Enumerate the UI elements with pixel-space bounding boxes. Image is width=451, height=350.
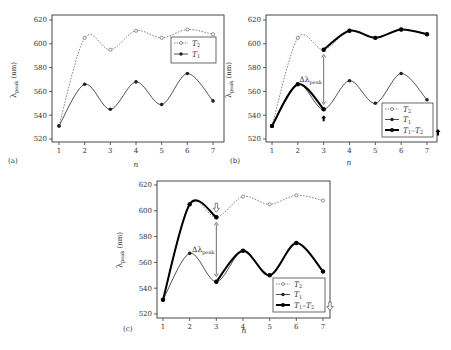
figure: 5205405605806006201234567nλpeak (nm)(a)T…: [0, 0, 451, 350]
legend-t1-marker: [390, 118, 393, 121]
y-tick-label: 560: [34, 88, 47, 96]
t1-marker: [425, 98, 429, 102]
legend: T2T1: [171, 37, 216, 63]
x-tick-label: 3: [214, 323, 218, 331]
t1-t2-marker: [321, 107, 325, 111]
y-tick-label: 560: [139, 259, 152, 267]
t1-marker: [211, 99, 215, 103]
panel-label: (c): [123, 325, 133, 333]
y-tick-label: 620: [34, 16, 47, 24]
t1-marker: [109, 107, 113, 111]
t1-marker: [83, 82, 87, 86]
x-tick-label: 6: [399, 147, 404, 155]
y-tick-label: 600: [34, 40, 47, 48]
y-tick-label: 600: [248, 40, 261, 48]
x-tick-label: 7: [321, 323, 325, 331]
legend-t2-marker: [282, 283, 285, 286]
y-axis-label: λpeak (nm): [9, 62, 20, 98]
legend-t1-t2-marker: [281, 303, 285, 307]
t1-t2-marker: [373, 36, 377, 40]
filled-up-arrow-icon: [321, 115, 326, 121]
t1-t2-marker: [214, 215, 218, 219]
y-axis-label: λpeak (nm): [115, 232, 126, 268]
t2-marker: [186, 28, 189, 31]
t1-t2-marker: [294, 241, 298, 245]
y-tick-label: 560: [248, 88, 261, 96]
x-tick-label: 2: [296, 147, 300, 155]
t2-marker: [211, 33, 214, 36]
t1-t2-marker: [214, 280, 218, 284]
y-tick-label: 540: [248, 112, 261, 120]
t2-marker: [134, 29, 137, 32]
t2-marker: [296, 36, 299, 39]
y-tick-label: 580: [139, 233, 152, 241]
x-tick-label: 1: [57, 147, 61, 155]
y-tick-label: 620: [248, 16, 261, 24]
legend-open-down-arrow-icon: [327, 302, 333, 311]
t2-marker: [83, 36, 86, 39]
plot-frame: [52, 15, 224, 142]
y-tick-label: 520: [248, 135, 261, 143]
y-tick-label: 580: [34, 64, 47, 72]
t2-marker: [321, 199, 324, 202]
x-tick-label: 5: [373, 147, 377, 155]
t2-marker: [109, 48, 112, 51]
y-tick-label: 620: [139, 181, 152, 189]
t1-marker: [348, 79, 352, 83]
t2-marker: [295, 194, 298, 197]
t1-t2-marker: [187, 202, 191, 206]
t1-marker: [374, 102, 378, 106]
y-tick-label: 520: [34, 135, 47, 143]
t2-marker: [268, 203, 271, 206]
x-tick-label: 2: [187, 323, 191, 331]
panel-b-chart: 5205405605806006201234567nλpeak (nm)(b)Δ…: [224, 15, 441, 167]
t1-t2-marker: [241, 249, 245, 253]
legend-t1-marker: [281, 293, 284, 296]
delta-lambda-label: Δλpeak: [192, 245, 215, 256]
legend-t2-marker: [391, 108, 394, 111]
series-t1-t2-line: [272, 84, 324, 126]
x-tick-label: 6: [294, 323, 299, 331]
x-tick-label: 7: [211, 147, 215, 155]
y-tick-label: 600: [139, 207, 152, 215]
t1-t2-marker: [267, 273, 271, 277]
x-tick-label: 7: [425, 147, 429, 155]
t1-t2-marker: [425, 32, 429, 36]
x-tick-label: 5: [159, 147, 163, 155]
x-tick-label: 2: [82, 147, 86, 155]
open-down-arrow-icon: [213, 203, 219, 212]
t2-marker: [241, 195, 244, 198]
t1-marker: [57, 124, 61, 128]
legend: T2T1T1–T2: [382, 103, 433, 137]
y-tick-label: 580: [248, 64, 261, 72]
t1-t2-marker: [347, 29, 351, 33]
t1-t2-marker: [399, 27, 403, 31]
panel-label: (a): [8, 157, 18, 165]
t1-marker: [186, 72, 190, 76]
y-tick-label: 520: [139, 310, 152, 318]
legend-t2-marker: [180, 42, 183, 45]
x-axis-label: n: [134, 160, 139, 169]
x-tick-label: 3: [321, 147, 325, 155]
panel-label: (b): [230, 157, 240, 165]
t1-marker: [160, 103, 164, 107]
y-tick-label: 540: [139, 285, 152, 293]
t1-t2-marker: [321, 269, 325, 273]
x-tick-label: 5: [267, 323, 271, 331]
t1-t2-marker: [270, 124, 274, 128]
t1-marker: [399, 72, 403, 76]
panel-c-chart: 5205405605806006201234567nλpeak (nm)(c)Δ…: [115, 181, 333, 335]
delta-lambda-label: Δλpeak: [299, 75, 322, 86]
t1-marker: [134, 80, 138, 84]
legend-t1-marker: [179, 52, 182, 55]
t1-t2-marker: [161, 298, 165, 302]
x-axis-label: n: [242, 326, 247, 335]
t1-marker: [188, 252, 192, 256]
x-tick-label: 3: [108, 147, 112, 155]
t2-marker: [160, 36, 163, 39]
legend-t1-t2-marker: [390, 128, 394, 132]
panel-a-chart: 5205405605806006201234567nλpeak (nm)(a)T…: [8, 15, 224, 169]
y-tick-label: 540: [34, 112, 47, 120]
y-axis-label: λpeak (nm): [224, 62, 235, 98]
legend-filled-up-arrow-icon: [436, 129, 441, 136]
